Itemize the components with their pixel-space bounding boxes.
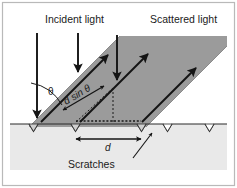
spacing-label: d	[105, 142, 111, 153]
substrate-block	[10, 124, 227, 170]
diagram-canvas: Incident light Scattered light θ d sin θ…	[0, 0, 237, 188]
scattered-light-label: Scattered light	[150, 13, 217, 25]
theta-label: θ	[48, 86, 54, 97]
diffraction-grating-figure: Incident light Scattered light θ d sin θ…	[0, 0, 237, 188]
incident-light-label: Incident light	[45, 13, 104, 25]
scratches-label: Scratches	[68, 158, 115, 170]
